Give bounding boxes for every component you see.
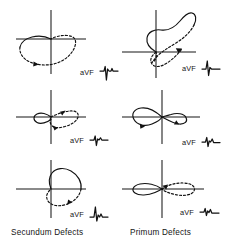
ecg-glyph-left-bottom: [88, 204, 110, 226]
loop-dashed-segment: [50, 111, 78, 128]
avf-label-left-top: aVF: [80, 68, 94, 77]
panel-right-bottom: aVF: [118, 156, 222, 222]
avf-label-right-bottom: aVF: [180, 208, 194, 217]
direction-arrow-lower: [53, 126, 58, 131]
loop-solid-segment-right-lobe: [162, 114, 187, 125]
avf-label-right-middle: aVF: [182, 138, 196, 147]
loop-dashed-segment: [152, 25, 194, 63]
panel-right-top: aVF: [118, 2, 222, 80]
direction-arrow-upper: [60, 110, 66, 115]
panel-left-middle: aVF: [8, 86, 108, 148]
panel-left-top: aVF: [8, 6, 108, 78]
loop-dashed-segment: [20, 35, 76, 65]
vcg-figure: aVF aVF aVF: [0, 0, 225, 246]
ecg-glyph-right-middle: [200, 133, 222, 151]
loop-solid-segment: [34, 113, 51, 123]
panel-right-middle: aVF: [118, 86, 222, 148]
direction-arrow: [33, 62, 39, 67]
loop-dashed-segment: [47, 189, 81, 206]
ecg-glyph-right-bottom: [198, 203, 222, 221]
avf-label-left-bottom: aVF: [70, 210, 84, 219]
ecg-glyph-left-top: [98, 62, 120, 82]
ecg-glyph-right-top: [200, 58, 222, 80]
loop-solid-segment: [49, 169, 81, 189]
direction-arrow: [67, 200, 72, 205]
panel-left-bottom: aVF: [8, 156, 108, 222]
direction-arrow-right: [174, 120, 179, 124]
ecg-glyph-left-middle: [88, 131, 110, 149]
direction-arrow-left: [140, 124, 145, 129]
caption-primum-defects: Primum Defects: [130, 228, 191, 237]
avf-label-right-top: aVF: [182, 64, 196, 73]
loop-solid-segment: [20, 36, 51, 47]
caption-secundum-defects: Secundum Defects: [11, 228, 83, 237]
avf-label-left-middle: aVF: [70, 136, 84, 145]
